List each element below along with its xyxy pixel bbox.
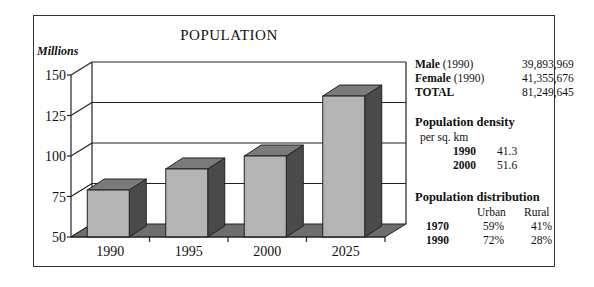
total-row: TOTAL	[415, 86, 454, 99]
density-year-2000: 2000	[453, 159, 476, 172]
male-value: 39,893,969	[522, 58, 574, 71]
x-tick-label: 1990	[96, 244, 124, 259]
dist-year-1970: 1970	[426, 220, 449, 233]
dist-year-1990: 1990	[426, 234, 449, 247]
female-row: Female (1990)	[415, 72, 484, 85]
chart-bars	[87, 85, 382, 237]
density-year: 1990	[453, 145, 476, 157]
x-tick-label: 2025	[332, 244, 360, 259]
x-tick-label: 2000	[253, 244, 281, 259]
distribution-heading: Population distribution	[415, 191, 540, 204]
density-value-2000: 51.6	[497, 159, 517, 172]
density-value-1990: 41.3	[497, 145, 517, 158]
density-heading-text: Population density	[415, 115, 515, 129]
dist-year: 1990	[426, 234, 449, 246]
bar-1995	[166, 158, 225, 237]
rural-1990: 28%	[531, 234, 552, 247]
gridline-diagonal	[71, 143, 92, 156]
total-label: TOTAL	[415, 86, 454, 98]
dist-year: 1970	[426, 220, 449, 232]
urban-1970: 59%	[483, 220, 504, 233]
y-tick-label: 100	[45, 149, 66, 164]
bar-front	[166, 169, 208, 237]
rural-1970: 41%	[531, 220, 552, 233]
bar-2000	[244, 145, 303, 237]
female-value: 41,355,676	[522, 72, 574, 85]
female-year: (1990)	[454, 72, 485, 84]
bar-chart: 50751001251501990199520002025	[0, 0, 594, 287]
density-heading: Population density	[415, 116, 515, 129]
bar-side	[365, 85, 382, 237]
female-label: Female	[415, 72, 451, 84]
col-rural: Rural	[524, 206, 550, 219]
bar-front	[244, 156, 286, 237]
male-year: (1990)	[443, 58, 474, 70]
gridline-diagonal	[71, 103, 92, 116]
male-label: Male	[415, 58, 440, 70]
density-year-1990: 1990	[453, 145, 476, 158]
gridline-diagonal	[71, 62, 92, 75]
distribution-heading-text: Population distribution	[415, 190, 540, 204]
bar-side	[286, 145, 303, 237]
y-tick-label: 50	[52, 230, 66, 245]
col-urban: Urban	[477, 206, 506, 219]
y-tick-label: 125	[45, 109, 66, 124]
bar-1990	[87, 179, 146, 237]
bar-2025	[323, 85, 382, 237]
y-tick-label: 75	[52, 190, 66, 205]
male-row: Male (1990)	[415, 58, 473, 71]
density-year: 2000	[453, 159, 476, 171]
bar-front	[87, 190, 129, 237]
x-tick-label: 1995	[175, 244, 203, 259]
density-unit: per sq. km	[420, 131, 468, 144]
bar-front	[323, 96, 365, 237]
y-tick-label: 150	[45, 68, 66, 83]
bar-side	[208, 158, 225, 237]
urban-1990: 72%	[483, 234, 504, 247]
total-value: 81,249,645	[522, 86, 574, 99]
